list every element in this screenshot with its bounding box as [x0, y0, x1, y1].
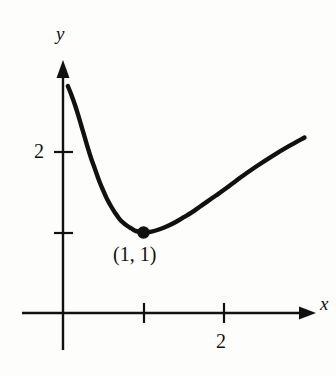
y-axis-label: y	[56, 24, 64, 43]
function-curve	[68, 86, 305, 233]
minimum-point-label: (1, 1)	[113, 244, 156, 264]
minimum-point-marker	[137, 226, 149, 238]
y-axis-arrowhead	[57, 60, 70, 78]
x-axis-arrowhead	[299, 307, 316, 320]
x-tick-label-2: 2	[216, 331, 226, 351]
graph-figure: y x 2 2 (1, 1)	[0, 0, 336, 376]
y-tick-label-2: 2	[34, 141, 44, 161]
x-axis-label: x	[320, 294, 328, 313]
plot-canvas	[0, 0, 336, 376]
